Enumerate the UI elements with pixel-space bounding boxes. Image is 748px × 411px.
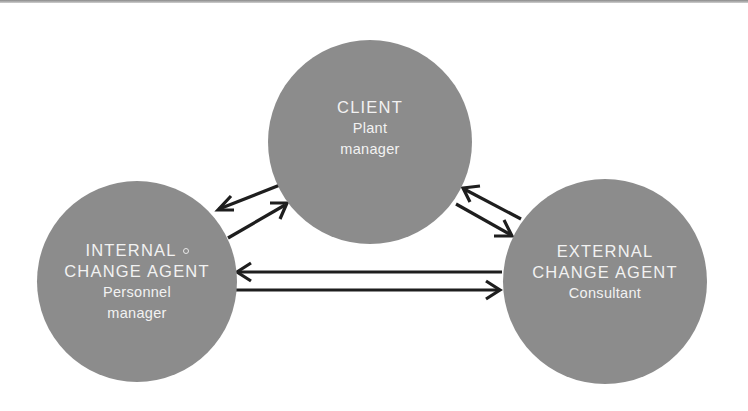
external-person-line-1: Consultant: [569, 283, 641, 304]
arrow-client-to-internal: [218, 183, 285, 210]
internal-person-line-2: manager: [107, 303, 166, 324]
client-person-line-2: manager: [340, 139, 399, 160]
internal-role-line-2: CHANGE AGENT: [64, 261, 210, 282]
external-role-line-2: CHANGE AGENT: [532, 262, 678, 283]
internal-role-line-1-text: INTERNAL: [85, 241, 176, 259]
external-role-line-1: EXTERNAL: [557, 241, 654, 262]
internal-person-line-1: Personnel: [103, 282, 171, 303]
external-change-agent-node: EXTERNAL CHANGE AGENT Consultant: [503, 179, 707, 384]
internal-change-agent-node: INTERNAL CHANGE AGENT Personnel manager: [37, 181, 237, 382]
arrow-internal-to-client: [228, 203, 287, 238]
client-role-label: CLIENT: [337, 97, 403, 118]
arrow-external-to-internal: [237, 263, 502, 281]
client-node: CLIENT Plant manager: [268, 40, 472, 244]
arrow-internal-to-external: [236, 281, 500, 299]
speck-mark-icon: [183, 248, 189, 254]
internal-role-line-1: INTERNAL: [85, 240, 188, 261]
client-person-line-1: Plant: [353, 118, 388, 139]
